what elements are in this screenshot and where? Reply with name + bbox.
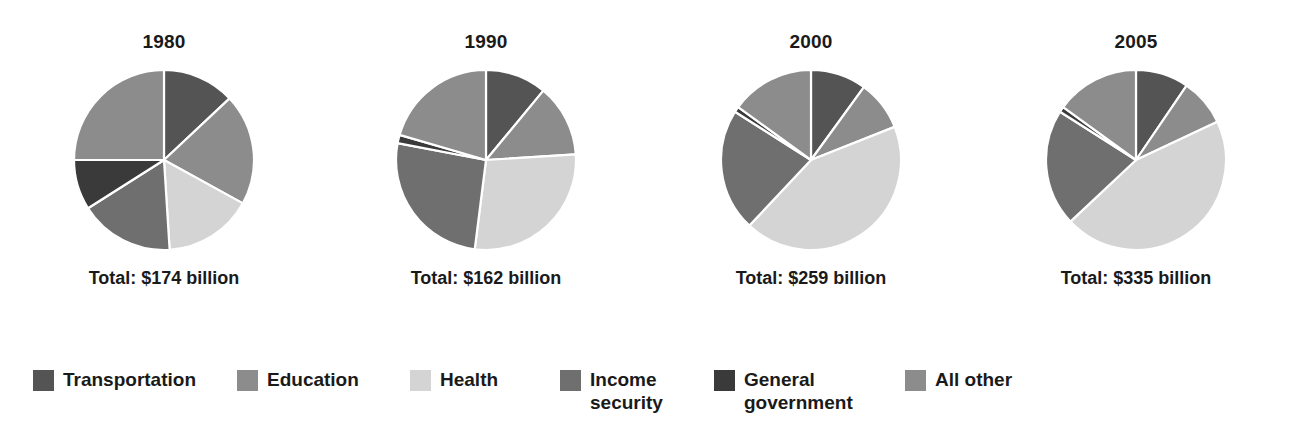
legend-swatch-icon bbox=[410, 370, 431, 391]
pie-total-label: Total: $174 billion bbox=[0, 268, 328, 289]
pie-total-label: Total: $259 billion bbox=[647, 268, 975, 289]
pie-panel-2005: 2005Total: $335 billion bbox=[972, 0, 1300, 352]
pie-year-label: 2005 bbox=[972, 30, 1300, 54]
legend-item-income-security[interactable]: Income security bbox=[560, 368, 663, 414]
legend-swatch-icon bbox=[905, 370, 926, 391]
legend-item-health[interactable]: Health bbox=[410, 368, 498, 391]
pie-panel-1990: 1990Total: $162 billion bbox=[322, 0, 650, 352]
pie-svg bbox=[719, 68, 903, 252]
pie-svg bbox=[72, 68, 256, 252]
pie-slice-all-other bbox=[74, 70, 164, 160]
legend-item-transportation[interactable]: Transportation bbox=[33, 368, 196, 391]
legend-item-label: Education bbox=[267, 368, 359, 391]
pie-panel-2000: 2000Total: $259 billion bbox=[647, 0, 975, 352]
pie-year-label: 1980 bbox=[0, 30, 328, 54]
pie-chart-figure: 1980Total: $174 billion1990Total: $162 b… bbox=[0, 0, 1314, 448]
pie-svg bbox=[394, 68, 578, 252]
pie-graphic-1980 bbox=[72, 68, 256, 252]
legend-item-education[interactable]: Education bbox=[237, 368, 359, 391]
pie-svg bbox=[1044, 68, 1228, 252]
pie-year-label: 1990 bbox=[322, 30, 650, 54]
chart-legend: TransportationEducationHealthIncome secu… bbox=[0, 368, 1314, 438]
legend-swatch-icon bbox=[560, 370, 581, 391]
pie-graphic-2000 bbox=[719, 68, 903, 252]
pie-panel-1980: 1980Total: $174 billion bbox=[0, 0, 328, 352]
legend-swatch-icon bbox=[33, 370, 54, 391]
legend-swatch-icon bbox=[237, 370, 258, 391]
legend-item-label: Transportation bbox=[63, 368, 196, 391]
pie-total-label: Total: $335 billion bbox=[972, 268, 1300, 289]
pie-total-label: Total: $162 billion bbox=[322, 268, 650, 289]
pie-slice-health bbox=[475, 154, 576, 250]
legend-swatch-icon bbox=[714, 370, 735, 391]
legend-item-label: Income security bbox=[590, 368, 663, 414]
pie-graphic-1990 bbox=[394, 68, 578, 252]
pie-slice-income-security bbox=[396, 143, 486, 249]
legend-item-label: General government bbox=[744, 368, 853, 414]
pie-graphic-2005 bbox=[1044, 68, 1228, 252]
legend-item-label: All other bbox=[935, 368, 1012, 391]
legend-item-general-government[interactable]: General government bbox=[714, 368, 853, 414]
legend-item-label: Health bbox=[440, 368, 498, 391]
pie-year-label: 2000 bbox=[647, 30, 975, 54]
legend-item-all-other[interactable]: All other bbox=[905, 368, 1012, 391]
